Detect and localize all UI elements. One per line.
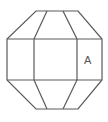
- bottom-inner-right: [63, 80, 77, 109]
- caption-cutoff: … … …: [0, 117, 108, 122]
- top-inner-right: [63, 11, 77, 39]
- prism-diagram: [0, 0, 108, 122]
- top-inner-left: [34, 11, 47, 39]
- bottom-inner-left: [34, 80, 47, 109]
- face-label-a: A: [84, 55, 91, 66]
